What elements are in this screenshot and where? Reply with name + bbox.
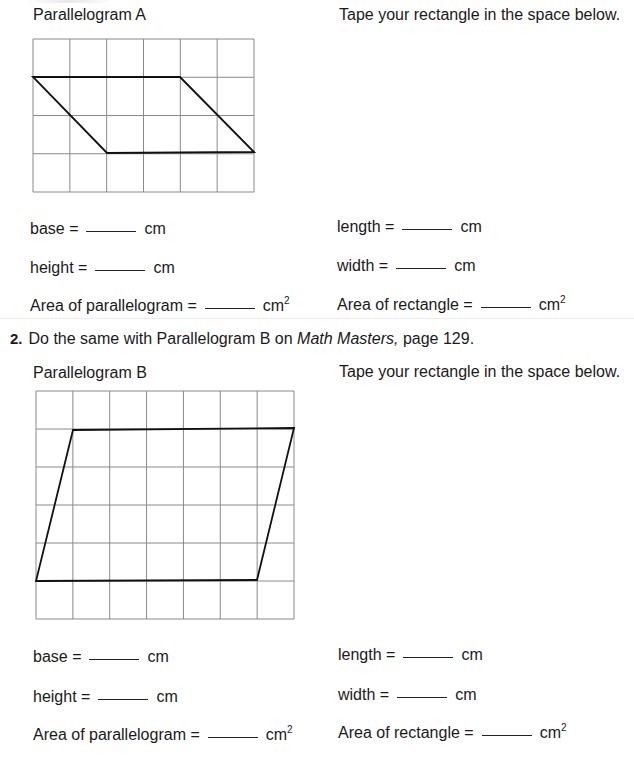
blank-line[interactable]: [89, 658, 139, 660]
height-field-b[interactable]: height =cm: [33, 688, 178, 706]
length-field-b[interactable]: length =cm: [338, 646, 483, 664]
blank-line[interactable]: [397, 696, 447, 698]
width-field-b[interactable]: width =cm: [338, 686, 476, 704]
blank-line[interactable]: [98, 698, 148, 700]
blank-line[interactable]: [482, 734, 532, 736]
blank-line[interactable]: [208, 736, 258, 738]
blank-line[interactable]: [403, 656, 453, 658]
area-parallelogram-field-b[interactable]: Area of parallelogram =cm2: [33, 726, 293, 744]
area-rectangle-field-b[interactable]: Area of rectangle =cm2: [338, 724, 567, 742]
base-field-b[interactable]: base =cm: [33, 648, 169, 666]
parallelogram-b-grid: [0, 0, 634, 640]
